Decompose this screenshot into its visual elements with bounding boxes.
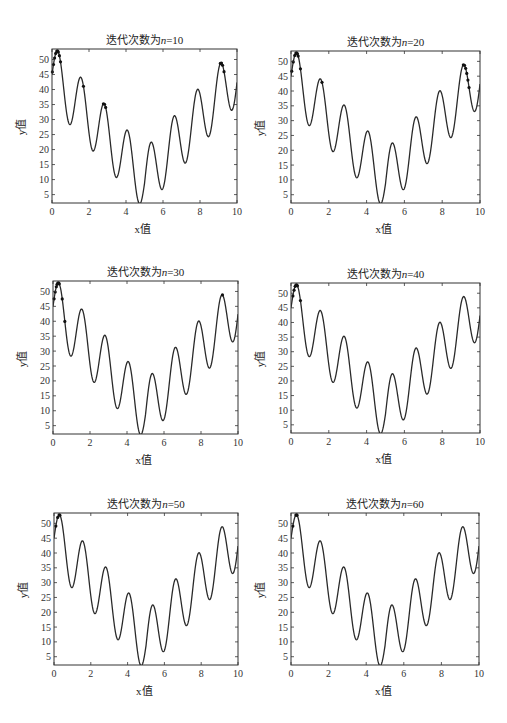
x-tick-label: 6 bbox=[401, 668, 406, 679]
y-tick-label: 20 bbox=[278, 607, 288, 618]
plot-area: 02468105101520253035404550 bbox=[0, 0, 507, 723]
function-curve bbox=[291, 515, 479, 666]
population-point bbox=[291, 524, 294, 527]
y-tick-label: 35 bbox=[278, 562, 288, 573]
population-point bbox=[295, 514, 298, 517]
y-tick-label: 10 bbox=[278, 636, 288, 647]
y-tick-label: 40 bbox=[278, 548, 288, 559]
y-tick-label: 30 bbox=[278, 577, 288, 588]
x-tick-label: 2 bbox=[326, 668, 331, 679]
x-tick-label: 4 bbox=[364, 668, 369, 679]
y-tick-label: 5 bbox=[283, 651, 288, 662]
x-tick-label: 8 bbox=[439, 668, 444, 679]
y-tick-label: 45 bbox=[278, 533, 288, 544]
x-tick-label: 0 bbox=[289, 668, 294, 679]
y-tick-label: 25 bbox=[278, 592, 288, 603]
x-tick-label: 10 bbox=[474, 668, 484, 679]
y-tick-label: 50 bbox=[278, 518, 288, 529]
y-tick-label: 15 bbox=[278, 622, 288, 633]
